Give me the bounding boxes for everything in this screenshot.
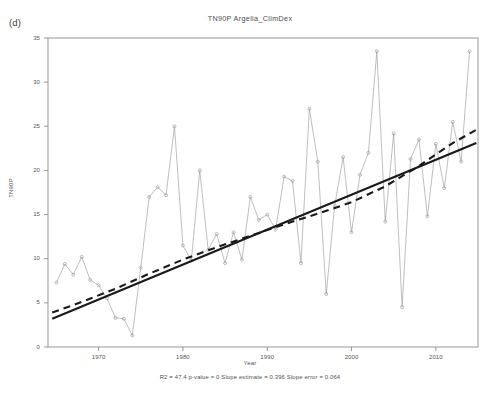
y-tick-label: 10 [18,255,40,261]
series-line-2 [52,130,476,313]
x-tick-label: 1970 [79,354,119,360]
y-tick-label: 30 [18,79,40,85]
series-line-0 [56,51,469,335]
y-tick-label: 20 [18,167,40,173]
x-tick-label: 1990 [247,354,287,360]
plot-canvas [0,0,500,396]
x-tick-label: 2010 [416,354,456,360]
y-tick-label: 5 [18,299,40,305]
y-tick-label: 15 [18,211,40,217]
y-tick-label: 0 [18,344,40,350]
y-tick-label: 35 [18,35,40,41]
chart-caption: R2 = 47.4 p-value = 0 Slope estimate = 0… [0,374,500,380]
x-tick-label: 2000 [332,354,372,360]
plot-border [48,38,478,347]
chart-figure: (d) TN90P Argelia_ClimDex TN90P Year 197… [0,0,500,396]
y-tick-label: 25 [18,123,40,129]
x-tick-label: 1980 [163,354,203,360]
